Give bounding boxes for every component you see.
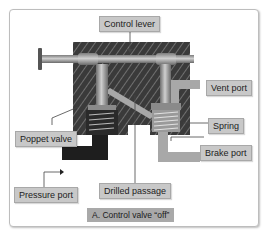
brake-port-passage — [158, 132, 200, 162]
label-spring: Spring — [208, 118, 244, 134]
label-control-lever: Control lever — [99, 16, 160, 32]
label-brake-port: Brake port — [200, 145, 252, 161]
pressure-arrow-icon — [60, 169, 64, 175]
label-vent-port: Vent port — [206, 80, 252, 96]
figure-caption: A. Control valve “off” — [87, 208, 174, 222]
label-drilled-passage: Drilled passage — [99, 183, 171, 199]
label-poppet-valve: Poppet valve — [15, 131, 77, 147]
label-pressure-port: Pressure port — [14, 187, 78, 203]
